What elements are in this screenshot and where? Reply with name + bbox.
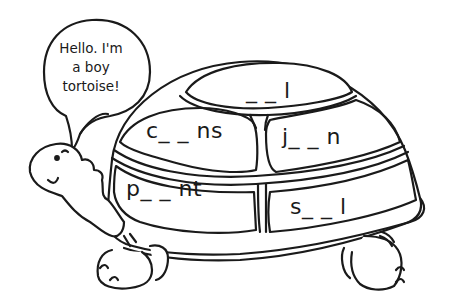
shell-word-lower-left: p_ _ nt: [126, 178, 202, 200]
shell-word-top: _ _ l: [246, 80, 291, 102]
speech-bubble-text: Hello. I'm a boy tortoise!: [50, 39, 132, 96]
speech-line-3: tortoise!: [50, 77, 132, 96]
shell-word-upper-left: c_ _ ns: [146, 120, 223, 142]
worksheet-illustration: Hello. I'm a boy tortoise! _ _ l c_ _ ns…: [0, 0, 453, 308]
shell-word-lower-right: s_ _ l: [290, 196, 347, 218]
front-foot: [98, 250, 152, 289]
shell-word-upper-right: j_ _ n: [282, 126, 341, 148]
speech-line-1: Hello. I'm: [50, 39, 132, 58]
back-foot: [351, 236, 401, 290]
speech-line-2: a boy: [50, 58, 132, 77]
